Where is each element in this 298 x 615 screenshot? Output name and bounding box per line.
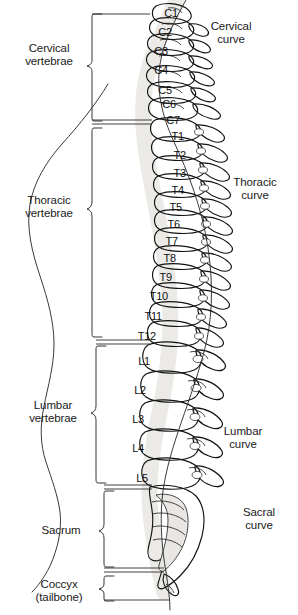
vertebra-label-c5: C5 — [142, 85, 172, 96]
region-label-lumbar: Lumbar vertebrae — [10, 399, 96, 424]
vertebra-label-c7: C7 — [150, 115, 180, 126]
region-label-cervical: Cervical vertebrae — [6, 42, 92, 67]
vertebra-label-c2: C2 — [142, 27, 172, 38]
vertebra-label-t10: T10 — [138, 291, 168, 302]
vertebra-label-c4: C4 — [138, 65, 168, 76]
vertebra-label-t4: T4 — [154, 185, 184, 196]
region-brackets — [87, 14, 114, 601]
region-label-thoracic: Thoracic vertebrae — [6, 194, 92, 219]
region-label-sacrum: Sacrum — [18, 524, 104, 537]
curve-label-lumbar: Lumbar curve — [206, 425, 280, 450]
vertebra-label-t8: T8 — [146, 253, 176, 264]
curve-label-thoracic: Thoracic curve — [218, 176, 292, 201]
vertebra-label-c1: C1 — [148, 8, 178, 19]
curve-label-sacral: Sacral curve — [222, 506, 296, 531]
spine-diagram: Cervical vertebrae Thoracic vertebrae Lu… — [0, 0, 298, 615]
curve-label-cervical: Cervical curve — [194, 20, 268, 45]
left-body-contour — [29, 84, 108, 592]
vertebra-label-c3: C3 — [138, 46, 168, 57]
vertebra-label-l5: L5 — [118, 473, 148, 484]
vertebra-label-t2: T2 — [156, 150, 186, 161]
vertebra-label-t11: T11 — [132, 311, 162, 322]
vertebra-label-l2: L2 — [116, 385, 146, 396]
vertebra-label-t7: T7 — [148, 236, 178, 247]
vertebra-label-l1: L1 — [120, 356, 150, 367]
vertebra-label-c6: C6 — [146, 99, 176, 110]
vertebra-label-t3: T3 — [156, 168, 186, 179]
region-label-coccyx: Coccyx (tailbone) — [14, 578, 104, 603]
vertebra-label-l3: L3 — [114, 414, 144, 425]
vertebra-label-t6: T6 — [150, 219, 180, 230]
vertebra-label-t5: T5 — [152, 202, 182, 213]
vertebra-label-t12: T12 — [126, 331, 156, 342]
vertebra-label-t9: T9 — [142, 272, 172, 283]
vertebra-label-t1: T1 — [154, 131, 184, 142]
vertebra-label-l4: L4 — [114, 443, 144, 454]
